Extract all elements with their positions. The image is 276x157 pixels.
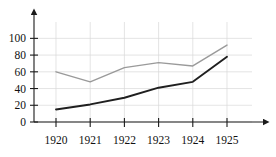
series-lines xyxy=(56,45,227,109)
y-tick-label: 100 xyxy=(9,32,27,44)
x-tick-label: 1921 xyxy=(79,134,102,146)
x-tick-label: 1922 xyxy=(113,134,136,146)
y-tick-label: 80 xyxy=(15,49,27,61)
y-tick-label: 20 xyxy=(15,99,27,111)
y-tick-label: 0 xyxy=(20,116,26,128)
x-tick-label: 1924 xyxy=(181,134,204,146)
y-tick-label: 60 xyxy=(15,66,27,78)
x-tick-label: 1920 xyxy=(45,134,68,146)
axes xyxy=(34,14,264,122)
chart-canvas: 020406080100 192019211922192319241925 xyxy=(0,0,276,157)
x-tick-label: 1925 xyxy=(216,134,239,146)
x-tick-label: 1923 xyxy=(147,134,170,146)
line-chart: 020406080100 192019211922192319241925 xyxy=(0,0,276,157)
y-tick-label: 40 xyxy=(15,83,27,95)
